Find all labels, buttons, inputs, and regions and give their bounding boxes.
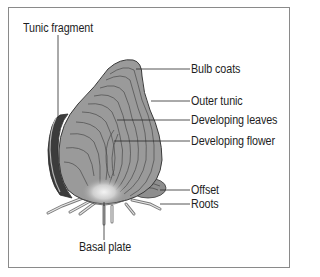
label-outer-tunic: Outer tunic	[191, 94, 243, 108]
label-offset: Offset	[191, 183, 219, 197]
label-developing-leaves: Developing leaves	[191, 113, 277, 127]
label-bulb-coats: Bulb coats	[191, 62, 240, 76]
label-roots: Roots	[191, 197, 219, 211]
label-developing-flower: Developing flower	[191, 134, 275, 148]
label-basal-plate: Basal plate	[79, 240, 131, 254]
label-tunic-fragment: Tunic fragment	[23, 21, 93, 35]
